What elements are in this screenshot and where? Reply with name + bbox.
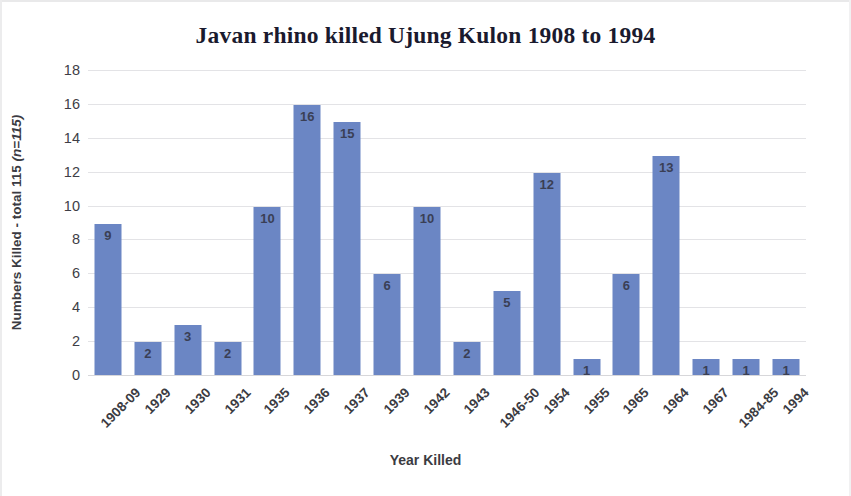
y-tick-label: 6 (46, 266, 80, 281)
bar-slot: 13 (646, 70, 686, 376)
bar-slot: 3 (168, 70, 208, 376)
bar[interactable]: 1 (733, 359, 760, 376)
bar[interactable]: 15 (334, 122, 361, 376)
x-axis-line (88, 375, 806, 376)
bar-slot: 15 (327, 70, 367, 376)
bar-value-label: 13 (653, 161, 680, 174)
y-tick-label: 2 (46, 334, 80, 349)
bar-value-label: 2 (453, 347, 480, 360)
bar-slot: 1 (686, 70, 726, 376)
x-label-slot: 1942 (407, 379, 447, 449)
x-label-slot: 1936 (287, 379, 327, 449)
x-label-slot: 1935 (248, 379, 288, 449)
x-label-slot: 1994 (766, 379, 806, 449)
bar-slot: 9 (88, 70, 128, 376)
scan-edge-top (0, 0, 851, 2)
bar[interactable]: 1 (573, 359, 600, 376)
bar-value-label: 5 (493, 296, 520, 309)
x-label-slot: 1908-09 (88, 379, 128, 449)
bar[interactable]: 5 (493, 291, 520, 376)
bar-value-label: 6 (374, 279, 401, 292)
bar-value-label: 10 (254, 212, 281, 225)
x-label-slot: 1943 (447, 379, 487, 449)
bar[interactable]: 12 (533, 173, 560, 376)
bar[interactable]: 10 (414, 207, 441, 376)
x-label-slot: 1929 (128, 379, 168, 449)
bar-value-label: 2 (134, 347, 161, 360)
bar-value-label: 3 (174, 330, 201, 343)
chart-title: Javan rhino killed Ujung Kulon 1908 to 1… (0, 22, 851, 49)
x-tick-label: 1994 (780, 385, 812, 417)
bar[interactable]: 16 (294, 105, 321, 376)
bar-slot: 10 (407, 70, 447, 376)
bar[interactable]: 13 (653, 156, 680, 376)
x-label-slot: 1955 (567, 379, 607, 449)
bar-slot: 2 (447, 70, 487, 376)
y-tick-label: 16 (46, 97, 80, 112)
x-label-slot: 1931 (208, 379, 248, 449)
y-axis-title-text: Numbers Killed - total 115 (9, 161, 24, 330)
bar-slot: 1 (726, 70, 766, 376)
x-label-slot: 1965 (607, 379, 647, 449)
y-axis-title: Numbers Killed - total 115 (n=115) (9, 73, 24, 373)
bar[interactable]: 6 (374, 274, 401, 376)
bar-value-label: 12 (533, 178, 560, 191)
x-label-slot: 1967 (686, 379, 726, 449)
bar-value-label: 9 (94, 229, 121, 242)
bar-slot: 10 (248, 70, 288, 376)
x-label-slot: 1984-85 (726, 379, 766, 449)
x-label-slot: 1937 (327, 379, 367, 449)
y-tick-label: 12 (46, 165, 80, 180)
bar[interactable]: 1 (693, 359, 720, 376)
bar-slot: 6 (607, 70, 647, 376)
bar-value-label: 6 (613, 279, 640, 292)
bar-slot: 1 (766, 70, 806, 376)
bar[interactable]: 2 (214, 342, 241, 376)
y-axis-tick-labels: 024681012141618 (40, 0, 80, 496)
y-tick-label: 0 (46, 368, 80, 383)
bar-slot: 2 (208, 70, 248, 376)
x-label-slot: 1954 (527, 379, 567, 449)
bar[interactable]: 9 (94, 224, 121, 377)
x-label-slot: 1946-50 (487, 379, 527, 449)
x-axis-title: Year Killed (0, 452, 851, 468)
x-axis-tick-labels: 1908-09192919301931193519361937193919421… (88, 379, 806, 449)
bar-value-label: 2 (214, 347, 241, 360)
bar[interactable]: 10 (254, 207, 281, 376)
y-tick-label: 8 (46, 232, 80, 247)
bar-value-label: 16 (294, 110, 321, 123)
x-label-slot: 1964 (646, 379, 686, 449)
scan-edge-left (0, 0, 2, 496)
bar-slot: 2 (128, 70, 168, 376)
bar-slot: 16 (287, 70, 327, 376)
bar-slot: 12 (527, 70, 567, 376)
x-label-slot: 1939 (367, 379, 407, 449)
bar[interactable]: 2 (134, 342, 161, 376)
y-tick-label: 14 (46, 131, 80, 146)
bar-value-label: 10 (414, 212, 441, 225)
plot-area: 923210161561025121613111 (88, 70, 806, 376)
bar[interactable]: 1 (773, 359, 800, 376)
chart-page: Javan rhino killed Ujung Kulon 1908 to 1… (0, 0, 851, 496)
bar[interactable]: 2 (453, 342, 480, 376)
y-axis-title-sample-size: (n=115) (9, 115, 24, 162)
bar[interactable]: 3 (174, 325, 201, 376)
bar[interactable]: 6 (613, 274, 640, 376)
bar-slot: 6 (367, 70, 407, 376)
y-tick-label: 18 (46, 63, 80, 78)
x-label-slot: 1930 (168, 379, 208, 449)
bar-slot: 1 (567, 70, 607, 376)
y-tick-label: 10 (46, 199, 80, 214)
bar-slot: 5 (487, 70, 527, 376)
y-tick-label: 4 (46, 300, 80, 315)
bar-value-label: 15 (334, 127, 361, 140)
